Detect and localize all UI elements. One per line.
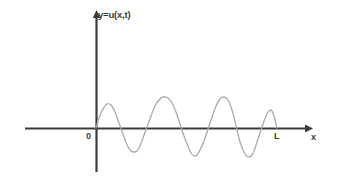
wave-curve <box>96 97 277 157</box>
x-axis <box>25 125 313 133</box>
y-axis-title-label: y=u(x,t) <box>98 10 130 20</box>
wave-diagram-figure: y=u(x,t) 0 L x <box>0 0 338 191</box>
length-mark-label: L <box>274 132 280 141</box>
plot-canvas <box>0 0 338 191</box>
origin-label: 0 <box>86 132 91 141</box>
x-axis-title-label: x <box>311 133 316 142</box>
y-axis <box>93 10 100 172</box>
